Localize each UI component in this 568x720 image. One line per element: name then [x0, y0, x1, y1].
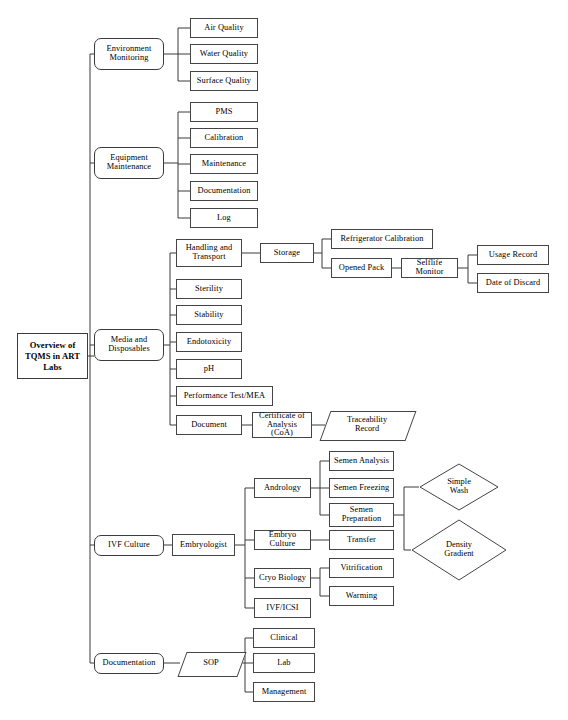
node-maintenance[interactable]: Maintenance: [190, 154, 258, 174]
node-warming-label: Warming: [332, 592, 391, 601]
node-ph[interactable]: pH: [176, 359, 242, 379]
node-semen-freezing-label: Semen Freezing: [332, 484, 391, 493]
node-water-quality[interactable]: Water Quality: [190, 44, 258, 64]
node-pms[interactable]: PMS: [190, 102, 258, 122]
node-selflife-monitor[interactable]: Selflife Monitor: [401, 258, 458, 278]
node-ivf-culture-label: IVF Culture: [97, 541, 161, 550]
node-media-and-disposables[interactable]: Media andDisposables: [94, 329, 164, 361]
node-vitrification[interactable]: Vitrification: [329, 558, 394, 578]
node-embryologist-label: Embryologist: [175, 541, 232, 550]
node-management-label: Management: [256, 688, 312, 697]
node-warming[interactable]: Warming: [329, 586, 394, 606]
node-transfer[interactable]: Transfer: [329, 530, 394, 550]
node-ivf-icsi[interactable]: IVF/ICSI: [254, 598, 311, 618]
node-endotoxicity-label: Endotoxicity: [179, 338, 239, 347]
node-embryologist[interactable]: Embryologist: [172, 534, 235, 556]
node-embryo-culture[interactable]: Embryo Culture: [254, 530, 311, 550]
node-date-of-discard[interactable]: Date of Discard: [477, 273, 549, 293]
node-transfer-label: Transfer: [332, 536, 391, 545]
node-sterility-label: Sterility: [179, 285, 239, 294]
node-handling-and-transport-label: Handling andTransport: [179, 244, 239, 261]
node-ph-label: pH: [179, 365, 239, 374]
node-surface-quality[interactable]: Surface Quality: [190, 71, 258, 91]
node-density-gradient[interactable]: DensityGradient: [411, 519, 507, 581]
node-environment-monitoring-label: EnvironmentMonitoring: [97, 45, 161, 62]
node-semen-preparation-label: SemenPreparation: [332, 506, 391, 523]
node-handling-and-transport[interactable]: Handling andTransport: [176, 239, 242, 267]
node-embryo-culture-label: Embryo Culture: [257, 531, 308, 548]
node-log-label: Log: [193, 214, 255, 223]
node-clinical[interactable]: Clinical: [253, 628, 315, 648]
node-performance-test-mea-label: Performance Test/MEA: [179, 392, 270, 401]
node-cryo-biology[interactable]: Cryo Biology: [254, 568, 311, 588]
node-calibration-label: Calibration: [193, 134, 255, 143]
node-maintenance-label: Maintenance: [193, 160, 255, 169]
node-semen-freezing[interactable]: Semen Freezing: [329, 478, 394, 498]
node-density-gradient-label: DensityGradient: [444, 541, 473, 559]
node-documentation-label: Documentation: [97, 659, 161, 668]
node-root-label: Overview of TQMS in ART Labs: [20, 340, 85, 373]
node-simple-wash[interactable]: SimpleWash: [419, 463, 499, 511]
node-cryo-biology-label: Cryo Biology: [257, 574, 308, 583]
node-traceability-record-label: TraceabilityRecord: [347, 416, 387, 434]
node-water-quality-label: Water Quality: [193, 50, 255, 59]
node-usage-record[interactable]: Usage Record: [477, 245, 549, 265]
node-documentation-equipment-label: Documentation: [193, 187, 255, 196]
node-sop[interactable]: SOP: [182, 652, 240, 675]
node-selflife-monitor-label: Selflife Monitor: [404, 259, 455, 276]
node-semen-analysis[interactable]: Semen Analysis: [329, 451, 394, 471]
node-refrigerator-calibration-label: Refrigerator Calibration: [334, 235, 430, 244]
node-certificate-of-analysis[interactable]: Certificate ofAnalysis (CoA): [252, 412, 312, 438]
node-document-label: Document: [179, 421, 239, 430]
node-usage-record-label: Usage Record: [480, 251, 546, 260]
node-storage-label: Storage: [263, 249, 311, 258]
node-air-quality-label: Air Quality: [193, 24, 255, 33]
node-date-of-discard-label: Date of Discard: [480, 279, 546, 288]
flowchart-canvas: Overview of TQMS in ART Labs Environment…: [0, 0, 568, 720]
node-clinical-label: Clinical: [256, 634, 312, 643]
node-media-and-disposables-label: Media andDisposables: [97, 336, 161, 353]
node-root[interactable]: Overview of TQMS in ART Labs: [17, 333, 88, 379]
node-semen-analysis-label: Semen Analysis: [332, 457, 391, 466]
node-stability[interactable]: Stability: [176, 305, 242, 325]
node-certificate-of-analysis-label: Certificate ofAnalysis (CoA): [255, 412, 309, 438]
node-log[interactable]: Log: [190, 208, 258, 228]
node-opened-pack-label: Opened Pack: [334, 264, 389, 273]
node-refrigerator-calibration[interactable]: Refrigerator Calibration: [331, 229, 433, 249]
node-sop-label: SOP: [203, 659, 218, 668]
node-management[interactable]: Management: [253, 682, 315, 702]
node-air-quality[interactable]: Air Quality: [190, 18, 258, 38]
node-andrology[interactable]: Andrology: [254, 478, 311, 498]
node-opened-pack[interactable]: Opened Pack: [331, 258, 392, 278]
node-lab[interactable]: Lab: [253, 653, 315, 673]
node-vitrification-label: Vitrification: [332, 564, 391, 573]
node-calibration[interactable]: Calibration: [190, 128, 258, 148]
node-endotoxicity[interactable]: Endotoxicity: [176, 332, 242, 352]
node-documentation[interactable]: Documentation: [94, 653, 164, 674]
node-simple-wash-label: SimpleWash: [447, 478, 471, 496]
node-stability-label: Stability: [179, 311, 239, 320]
node-storage[interactable]: Storage: [260, 243, 314, 263]
node-pms-label: PMS: [193, 108, 255, 117]
node-ivf-culture[interactable]: IVF Culture: [94, 535, 164, 556]
node-sterility[interactable]: Sterility: [176, 279, 242, 299]
node-equipment-maintenance-label: EquipmentMaintenance: [97, 154, 161, 171]
node-equipment-maintenance[interactable]: EquipmentMaintenance: [94, 147, 164, 179]
node-environment-monitoring[interactable]: EnvironmentMonitoring: [94, 38, 164, 70]
node-semen-preparation[interactable]: SemenPreparation: [329, 503, 394, 527]
node-traceability-record[interactable]: TraceabilityRecord: [325, 411, 409, 439]
node-andrology-label: Andrology: [257, 484, 308, 493]
node-ivf-icsi-label: IVF/ICSI: [257, 604, 308, 613]
node-document[interactable]: Document: [176, 415, 242, 435]
node-surface-quality-label: Surface Quality: [193, 77, 255, 86]
node-lab-label: Lab: [256, 659, 312, 668]
node-documentation-equipment[interactable]: Documentation: [190, 181, 258, 201]
node-performance-test-mea[interactable]: Performance Test/MEA: [176, 386, 273, 406]
